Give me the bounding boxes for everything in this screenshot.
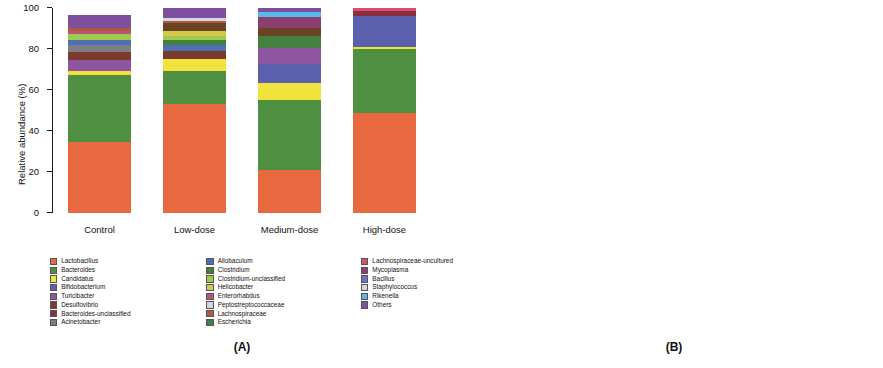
legend-swatch-icon bbox=[50, 275, 57, 282]
y-tick-label: 60 bbox=[28, 83, 39, 94]
bar-segment bbox=[68, 60, 131, 70]
legend-label: Bacteroides-unclassified bbox=[61, 311, 130, 317]
panel-a: Relative abundance (%) 020406080100 Cont… bbox=[0, 0, 452, 368]
legend-column: Lachnospiraceae-unculturedMycoplasmaBaci… bbox=[361, 258, 453, 326]
legend-swatch-icon bbox=[50, 284, 57, 291]
legend-item[interactable]: Bacteroides bbox=[50, 267, 130, 274]
legend-column: LactobacillusBacteroidesCandidatusBifido… bbox=[50, 258, 130, 326]
legend-swatch-icon bbox=[206, 284, 213, 291]
legend-swatch-icon bbox=[50, 258, 57, 265]
bar-segment bbox=[163, 59, 226, 70]
legend-label: Mycoplasma bbox=[372, 267, 408, 273]
bar-segment bbox=[68, 45, 131, 52]
bar-segment bbox=[163, 51, 226, 59]
legend-item[interactable]: Lachnospiraceae-uncultured bbox=[361, 258, 453, 265]
legend-swatch-icon bbox=[361, 275, 368, 282]
legend-label: Clostridium bbox=[218, 267, 250, 273]
legend-item[interactable]: Desulfovibrio bbox=[50, 301, 130, 308]
legend-label: Enterorhabdus bbox=[218, 293, 260, 299]
legend-label: Bifidobacterium bbox=[61, 284, 105, 290]
bar-group-a: ControlLow-doseMedium-doseHigh-dose bbox=[52, 8, 432, 213]
legend-label: Lachnospiraceae-uncultured bbox=[372, 258, 453, 264]
legend-label: Staphylococcus bbox=[372, 284, 417, 290]
panel-b: Relative abundance (%) 020406080100 Cont… bbox=[452, 0, 883, 368]
legend-item[interactable]: Acinetobacter bbox=[50, 319, 130, 326]
legend-item[interactable]: Clostridium bbox=[206, 267, 285, 274]
bar-segment bbox=[258, 170, 321, 213]
bar-segment bbox=[68, 15, 131, 27]
x-axis-label: Medium-dose bbox=[261, 224, 319, 235]
legend-label: Allobaculum bbox=[218, 258, 253, 264]
legend-swatch-icon bbox=[206, 275, 213, 282]
legend-item[interactable]: Bifidobacterium bbox=[50, 284, 130, 291]
x-axis-label: Low-dose bbox=[174, 224, 215, 235]
legend-label: Bacteroides bbox=[61, 267, 95, 273]
legend-swatch-icon bbox=[50, 319, 57, 326]
legend-label: Others bbox=[372, 302, 391, 308]
legend-swatch-icon bbox=[206, 267, 213, 274]
legend-label: Desulfovibrio bbox=[61, 302, 98, 308]
x-axis-label: High-dose bbox=[363, 224, 406, 235]
legend-label: Helicobacter bbox=[218, 284, 254, 290]
legend-label: Bacillus bbox=[372, 276, 394, 282]
legend-swatch-icon bbox=[206, 310, 213, 317]
legend-a: LactobacillusBacteroidesCandidatusBifido… bbox=[50, 258, 453, 326]
legend-item[interactable]: Helicobacter bbox=[206, 284, 285, 291]
legend-swatch-icon bbox=[361, 301, 368, 308]
figure-container: Relative abundance (%) 020406080100 Cont… bbox=[0, 0, 883, 368]
legend-item[interactable]: Others bbox=[361, 301, 453, 308]
legend-item[interactable]: Bacillus bbox=[361, 275, 453, 282]
stacked-bar-medium-dose[interactable]: Medium-dose bbox=[258, 8, 321, 213]
legend-item[interactable]: Turicibacter bbox=[50, 293, 130, 300]
stacked-bar-low-dose[interactable]: Low-dose bbox=[163, 8, 226, 213]
legend-item[interactable]: Mycoplasma bbox=[361, 267, 453, 274]
legend-label: Lachnospiraceae bbox=[218, 311, 267, 317]
legend-item[interactable]: Rikenella bbox=[361, 293, 453, 300]
legend-swatch-icon bbox=[206, 319, 213, 326]
legend-swatch-icon bbox=[50, 310, 57, 317]
bar-segment bbox=[353, 16, 416, 47]
y-tick-label: 80 bbox=[28, 42, 39, 53]
bar-segment bbox=[353, 49, 416, 113]
x-axis-label: Control bbox=[84, 224, 115, 235]
legend-swatch-icon bbox=[206, 258, 213, 265]
legend-label: Candidatus bbox=[61, 276, 93, 282]
bar-segment bbox=[68, 75, 131, 143]
bar-segment bbox=[163, 23, 226, 30]
legend-item[interactable]: Bacteroides-unclassified bbox=[50, 310, 130, 317]
bar-segment bbox=[353, 113, 416, 213]
legend-label: Lactobacillus bbox=[61, 258, 98, 264]
legend-swatch-icon bbox=[361, 284, 368, 291]
bar-segment bbox=[163, 8, 226, 18]
legend-swatch-icon bbox=[50, 267, 57, 274]
legend-swatch-icon bbox=[206, 293, 213, 300]
legend-label: Escherichia bbox=[218, 319, 251, 325]
legend-item[interactable]: Allobaculum bbox=[206, 258, 285, 265]
plot-area-a: 020406080100 ControlLow-doseMedium-doseH… bbox=[52, 8, 432, 213]
legend-item[interactable]: Lactobacillus bbox=[50, 258, 130, 265]
panel-caption-b: (B) bbox=[666, 340, 683, 354]
stacked-bar-control[interactable]: Control bbox=[68, 8, 131, 213]
bar-segment bbox=[258, 64, 321, 82]
bar-segment bbox=[258, 28, 321, 36]
bar-segment bbox=[258, 83, 321, 100]
legend-label: Clostridium-unclassified bbox=[218, 276, 285, 282]
legend-item[interactable]: Escherichia bbox=[206, 319, 285, 326]
legend-item[interactable]: Staphylococcus bbox=[361, 284, 453, 291]
bar-segment bbox=[68, 142, 131, 213]
legend-swatch-icon bbox=[206, 301, 213, 308]
legend-item[interactable]: Lachnospiraceae bbox=[206, 310, 285, 317]
panel-caption-a: (A) bbox=[234, 340, 251, 354]
legend-swatch-icon bbox=[361, 258, 368, 265]
stacked-bar-high-dose[interactable]: High-dose bbox=[353, 8, 416, 213]
bar-segment bbox=[258, 17, 321, 27]
legend-label: Turicibacter bbox=[61, 293, 94, 299]
bar-segment bbox=[163, 104, 226, 213]
legend-item[interactable]: Enterorhabdus bbox=[206, 293, 285, 300]
legend-item[interactable]: Peptostreptococcaceae bbox=[206, 301, 285, 308]
legend-item[interactable]: Candidatus bbox=[50, 275, 130, 282]
legend-swatch-icon bbox=[361, 293, 368, 300]
bar-segment bbox=[258, 48, 321, 64]
bar-segment bbox=[68, 52, 131, 60]
legend-item[interactable]: Clostridium-unclassified bbox=[206, 275, 285, 282]
